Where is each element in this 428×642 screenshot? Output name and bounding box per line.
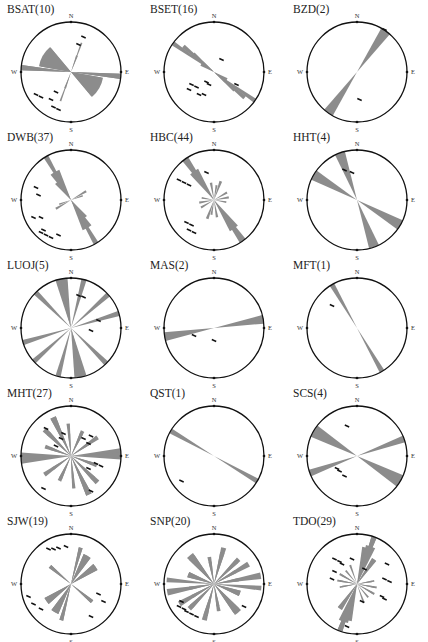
sample-marker <box>184 222 188 224</box>
direction-label-n: N <box>69 524 74 531</box>
direction-label-n: N <box>355 140 360 147</box>
direction-label-e: E <box>411 452 415 459</box>
rose-title: SNP(20) <box>150 515 190 527</box>
rose-petal <box>357 436 405 456</box>
sample-marker <box>54 445 58 447</box>
rose-svg: NESW <box>286 128 428 256</box>
compass-tick <box>213 505 216 508</box>
compass-tick <box>306 583 309 586</box>
direction-label-n: N <box>212 524 217 531</box>
compass-tick <box>306 327 309 330</box>
compass-tick <box>20 71 23 74</box>
sample-marker <box>44 428 48 430</box>
direction-label-s: S <box>69 638 73 642</box>
direction-label-n: N <box>69 12 74 19</box>
rose-petal <box>214 456 259 483</box>
sample-marker <box>51 548 55 550</box>
compass-tick <box>213 249 216 252</box>
rose-svg: NESW <box>143 256 286 384</box>
direction-label-n: N <box>212 12 217 19</box>
rose-petal <box>64 72 71 89</box>
compass-tick <box>70 533 73 536</box>
compass-tick <box>163 199 166 202</box>
compass-tick <box>263 199 266 202</box>
rose-panel-bset: NESWBSET(16) <box>143 0 286 128</box>
direction-label-w: W <box>297 452 304 459</box>
sample-marker <box>34 187 38 189</box>
direction-label-e: E <box>411 324 415 331</box>
compass-tick <box>163 327 166 330</box>
rose-petal <box>71 55 78 72</box>
rose-panel-hbc: NESWHBC(44) <box>143 128 286 256</box>
compass-tick <box>356 633 359 636</box>
sample-marker <box>31 217 35 219</box>
compass-tick <box>120 71 123 74</box>
sample-marker <box>179 480 183 482</box>
rose-svg: NESW <box>0 256 143 384</box>
compass-tick <box>213 405 216 408</box>
compass-tick <box>263 455 266 458</box>
rose-panel-mas: NESWMAS(2) <box>143 256 286 384</box>
compass-tick <box>120 455 123 458</box>
rose-petal <box>71 584 93 603</box>
compass-tick <box>356 505 359 508</box>
sample-marker <box>357 99 361 101</box>
sample-marker <box>49 99 53 101</box>
sample-marker <box>219 59 223 61</box>
rose-petal <box>55 200 71 210</box>
sample-marker <box>330 305 334 307</box>
sample-marker <box>39 217 43 219</box>
sample-marker <box>182 182 186 184</box>
compass-tick <box>356 149 359 152</box>
rose-petal <box>309 456 357 476</box>
compass-tick <box>20 583 23 586</box>
compass-tick <box>306 71 309 74</box>
direction-label-w: W <box>154 324 161 331</box>
sample-marker <box>192 335 196 337</box>
compass-tick <box>356 533 359 536</box>
sample-marker <box>204 81 208 83</box>
rose-title: MFT(1) <box>293 259 330 271</box>
direction-label-e: E <box>125 324 129 331</box>
compass-tick <box>163 455 166 458</box>
compass-tick <box>70 377 73 380</box>
sample-marker <box>382 598 386 600</box>
sample-marker <box>187 229 191 231</box>
compass-tick <box>356 405 359 408</box>
sample-marker <box>39 96 43 98</box>
sample-marker <box>34 94 38 96</box>
direction-label-e: E <box>411 580 415 587</box>
sample-marker <box>39 608 43 610</box>
compass-tick <box>263 71 266 74</box>
rose-svg: NESW <box>0 0 143 128</box>
rose-petal <box>169 429 214 456</box>
sample-marker <box>81 296 85 298</box>
sample-marker <box>177 179 181 181</box>
rose-panel-hht: NESWHHT(4) <box>286 128 428 256</box>
sample-marker <box>49 237 53 239</box>
rose-svg: NESW <box>0 384 143 512</box>
compass-tick <box>306 455 309 458</box>
direction-label-w: W <box>154 196 161 203</box>
direction-label-s: S <box>355 638 359 642</box>
compass-tick <box>213 121 216 124</box>
sample-marker <box>89 330 93 332</box>
rose-panel-mht: NESWMHT(27) <box>0 384 143 512</box>
direction-label-e: E <box>268 68 272 75</box>
direction-label-e: E <box>125 196 129 203</box>
compass-tick <box>213 277 216 280</box>
rose-title: HHT(4) <box>293 131 330 143</box>
rose-petal <box>324 72 357 116</box>
sample-marker <box>337 470 341 472</box>
sample-marker <box>332 558 336 560</box>
direction-label-e: E <box>411 196 415 203</box>
direction-label-n: N <box>69 268 74 275</box>
sample-marker <box>54 91 58 93</box>
sample-marker <box>350 558 354 560</box>
compass-tick <box>406 583 409 586</box>
sample-marker <box>189 84 193 86</box>
rose-title: QST(1) <box>150 387 185 399</box>
sample-marker <box>342 475 346 477</box>
rose-petal <box>71 195 83 200</box>
sample-marker <box>345 425 349 427</box>
